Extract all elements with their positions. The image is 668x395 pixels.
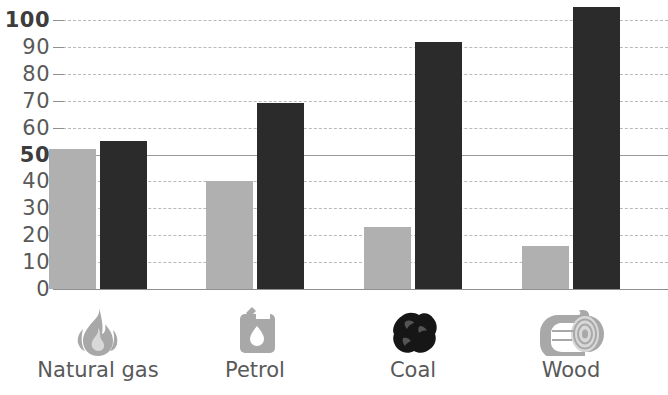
jerrycan-icon [232, 302, 278, 356]
bar-petrol-light [206, 181, 253, 289]
category-label-petrol: Petrol [225, 360, 285, 381]
y-tick-label-10: 10 [22, 252, 50, 273]
bar-petrol-dark [257, 103, 304, 289]
y-tick-label-0: 0 [36, 279, 50, 300]
y-tick-label-20: 20 [22, 225, 50, 246]
flame-icon [75, 302, 121, 356]
bar-coal-light [364, 227, 411, 289]
tick-mark-100 [53, 20, 64, 21]
y-tick-label-30: 30 [22, 198, 50, 219]
y-tick-label-70: 70 [22, 90, 50, 111]
y-tick-label-40: 40 [22, 171, 50, 192]
tick-mark-90 [53, 47, 64, 48]
y-tick-label-80: 80 [22, 63, 50, 84]
grouped-bar-chart: 0102030405060708090100 Natural gas Petro… [0, 0, 668, 395]
plot-area [63, 0, 668, 289]
y-tick-label-100: 100 [5, 10, 50, 31]
bar-natural-gas-dark [100, 141, 147, 289]
y-tick-label-60: 60 [22, 117, 50, 138]
bar-coal-dark [415, 42, 462, 289]
bar-wood-dark [573, 7, 620, 289]
coal-icon [387, 302, 439, 356]
y-tick-label-50: 50 [20, 144, 50, 165]
tick-mark-70 [53, 101, 64, 102]
category-label-natural-gas: Natural gas [37, 360, 158, 381]
category-label-coal: Coal [390, 360, 436, 381]
tick-mark-80 [53, 74, 64, 75]
category-label-wood: Wood [542, 360, 601, 381]
axis-baseline [63, 289, 668, 290]
bar-wood-light [522, 246, 569, 289]
y-tick-label-90: 90 [22, 36, 50, 57]
tick-mark-60 [53, 128, 64, 129]
log-icon [538, 302, 604, 356]
bar-natural-gas-light [49, 149, 96, 289]
y-axis: 0102030405060708090100 [0, 0, 50, 289]
